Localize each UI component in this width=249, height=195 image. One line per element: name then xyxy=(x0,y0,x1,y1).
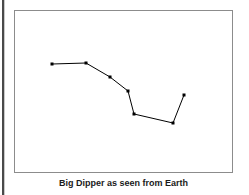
page-binding-edge-shadow xyxy=(4,0,5,195)
figure-frame xyxy=(14,10,233,173)
scanned-page: Big Dipper as seen from Earth xyxy=(0,0,249,195)
figure-caption: Big Dipper as seen from Earth xyxy=(14,178,233,188)
